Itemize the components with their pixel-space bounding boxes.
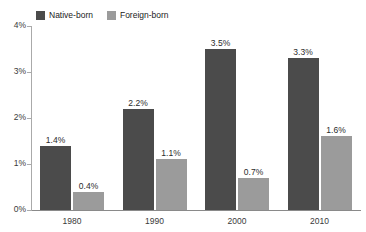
bar-value-label: 3.5%	[211, 38, 230, 48]
chart-legend: Native-born Foreign-born	[36, 9, 169, 21]
legend-item-foreign-born: Foreign-born	[107, 11, 169, 20]
bar: 0.4%	[73, 192, 104, 210]
legend-item-native-born: Native-born	[36, 11, 93, 20]
bar-value-label: 1.1%	[161, 148, 180, 158]
x-axis-label: 2000	[205, 216, 269, 227]
legend-label-foreign-born: Foreign-born	[120, 11, 169, 20]
bar-value-label: 0.7%	[244, 167, 263, 177]
x-axis-label: 2010	[288, 216, 352, 227]
bar-group: 3.3%1.6%	[288, 26, 352, 210]
bar: 0.7%	[238, 178, 269, 210]
y-tick-label: 0%	[4, 204, 26, 215]
y-tick	[27, 26, 32, 27]
bar: 3.3%	[288, 58, 319, 210]
bar-value-label: 2.2%	[128, 98, 147, 108]
plot-area: 0%1%2%3%4% 1.4%0.4%2.2%1.1%3.5%0.7%3.3%1…	[31, 26, 361, 210]
bar-value-label: 3.3%	[293, 47, 312, 57]
legend-label-native-born: Native-born	[49, 11, 93, 20]
y-tick	[27, 72, 32, 73]
y-tick-label: 3%	[4, 66, 26, 77]
y-tick-label: 4%	[4, 20, 26, 31]
bar: 3.5%	[205, 49, 236, 210]
y-tick-label: 1%	[4, 158, 26, 169]
x-axis-label: 1990	[123, 216, 187, 227]
bar-value-label: 0.4%	[79, 181, 98, 191]
bar-value-label: 1.4%	[46, 135, 65, 145]
bar: 2.2%	[123, 109, 154, 210]
y-tick	[27, 118, 32, 119]
legend-swatch-foreign-born	[107, 11, 116, 20]
x-axis-label: 1980	[40, 216, 104, 227]
bar-group: 2.2%1.1%	[123, 26, 187, 210]
y-tick-label: 2%	[4, 112, 26, 123]
bar: 1.6%	[321, 136, 352, 210]
bar: 1.1%	[156, 159, 187, 210]
y-tick	[27, 164, 32, 165]
bar-group: 3.5%0.7%	[205, 26, 269, 210]
legend-swatch-native-born	[36, 11, 45, 20]
bar: 1.4%	[40, 146, 71, 210]
bar-value-label: 1.6%	[326, 125, 345, 135]
x-axis-line	[31, 210, 361, 211]
bar-group: 1.4%0.4%	[40, 26, 104, 210]
bar-chart: Native-born Foreign-born 0%1%2%3%4% 1.4%…	[0, 0, 366, 232]
y-tick	[27, 210, 32, 211]
